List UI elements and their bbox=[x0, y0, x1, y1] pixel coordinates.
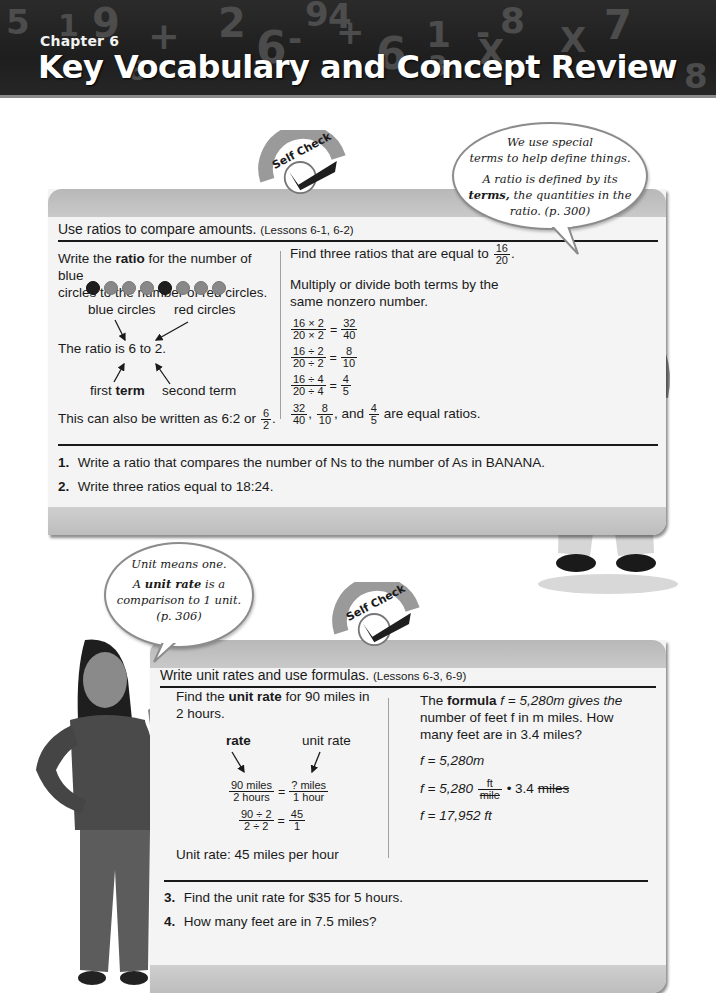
panel-bottom-band bbox=[150, 965, 666, 993]
example-unit-rate-prompt: Find the unit rate for 90 miles in 2 hou… bbox=[176, 688, 396, 722]
bg-glyph: 8 bbox=[684, 56, 708, 96]
bubble-tail bbox=[150, 640, 190, 670]
arrow-icon bbox=[100, 318, 220, 418]
self-check-badge: Self Check bbox=[258, 130, 348, 194]
equation-row: 90 ÷ 22 ÷ 2=451 bbox=[238, 809, 306, 832]
formula-result: f = 17,952 ft bbox=[420, 808, 492, 823]
bubble-tail bbox=[548, 224, 588, 260]
bg-glyph: 2 bbox=[218, 0, 246, 46]
red-circle bbox=[158, 281, 172, 295]
exercise-rule bbox=[164, 880, 648, 882]
also-written-note: This can also be written as 6:2 or 62. bbox=[58, 408, 276, 431]
lessons-ref: (Lessons 6-3, 6-9) bbox=[373, 670, 466, 682]
label-blue-circles: blue circles bbox=[88, 302, 156, 317]
blue-circle bbox=[212, 281, 226, 295]
page-title: Key Vocabulary and Concept Review bbox=[38, 48, 677, 86]
exercise-item: 1. Write a ratio that compares the numbe… bbox=[58, 455, 545, 470]
exercise-rule bbox=[58, 444, 658, 446]
fraction: 62 bbox=[261, 408, 271, 431]
column-divider bbox=[388, 698, 389, 858]
equation-row: 16 ÷ 220 ÷ 2=810 bbox=[290, 346, 358, 369]
panel-heading: Write unit rates and use formulas. (Less… bbox=[160, 667, 466, 683]
ratio-sentence: The ratio is 6 to 2. bbox=[58, 341, 166, 356]
blue-circle bbox=[104, 281, 118, 295]
speech-bubble-terms: We use special terms to help define thin… bbox=[452, 122, 648, 230]
label-rate: rate bbox=[226, 733, 251, 748]
equal-ratios-summary: 3240, 810, and 45 are equal ratios. bbox=[290, 403, 481, 426]
equation-row: 16 × 220 × 2=3240 bbox=[290, 318, 358, 341]
arrow-icon bbox=[220, 750, 340, 780]
bg-glyph: 7 bbox=[604, 2, 632, 48]
label-second-term: second term bbox=[162, 383, 236, 398]
chapter-banner: 5 1 9 + 8 2 6 - 9 4 + 6 1 - 8 X 7 3 8 X … bbox=[0, 0, 716, 98]
bg-glyph: 9 bbox=[305, 0, 329, 34]
panel-bottom-band bbox=[48, 507, 666, 535]
unit-rate-result: Unit rate: 45 miles per hour bbox=[176, 847, 339, 862]
label-red-circles: red circles bbox=[174, 302, 236, 317]
blue-circle bbox=[176, 281, 190, 295]
lessons-ref: (Lessons 6-1, 6-2) bbox=[260, 224, 353, 236]
chapter-label: Chapter 6 bbox=[40, 33, 119, 49]
column-divider bbox=[280, 251, 281, 419]
bg-glyph: + bbox=[336, 12, 365, 52]
girl-figure bbox=[0, 630, 175, 993]
formula-step: f = 5,280m bbox=[420, 753, 484, 768]
bg-glyph: 5 bbox=[6, 2, 30, 42]
blue-circle bbox=[122, 281, 136, 295]
label-unit-rate: unit rate bbox=[302, 733, 351, 748]
fraction: 1620 bbox=[494, 243, 510, 266]
exercise-item: 2. Write three ratios equal to 18:24. bbox=[58, 479, 273, 494]
panel-heading: Use ratios to compare amounts. (Lessons … bbox=[58, 221, 354, 237]
equation-row: 16 ÷ 420 ÷ 4=45 bbox=[290, 374, 352, 397]
circle-row bbox=[86, 281, 226, 295]
formula-step: f = 5,280 ftmile • 3.4 miles bbox=[420, 778, 569, 801]
example-equal-ratios-prompt: Find three ratios that are equal to 1620… bbox=[290, 243, 515, 266]
equation-row: 90 miles2 hours=? miles1 hour bbox=[228, 780, 329, 803]
blue-circle bbox=[140, 281, 154, 295]
exercise-item: 4. How many feet are in 7.5 miles? bbox=[164, 914, 377, 929]
red-circle bbox=[86, 281, 100, 295]
label-first-term: first term bbox=[90, 383, 145, 398]
example-formula-prompt: The formula f = 5,280m gives the number … bbox=[420, 692, 660, 743]
speech-bubble-unit-rate: Unit means one. A unit rate is a compari… bbox=[104, 542, 254, 648]
multiply-instruction: Multiply or divide both terms by the sam… bbox=[290, 276, 530, 310]
blue-circle bbox=[194, 281, 208, 295]
exercise-item: 3. Find the unit rate for $35 for 5 hour… bbox=[164, 890, 403, 905]
self-check-badge: Self Check bbox=[332, 582, 422, 646]
